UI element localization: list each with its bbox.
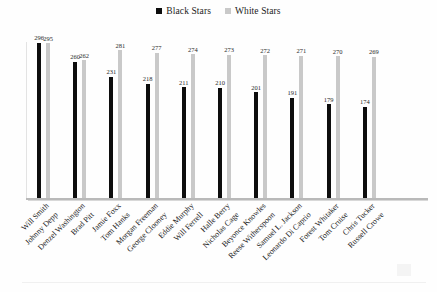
bar-value-label: 210	[215, 80, 225, 87]
x-axis-category-labels: Will SmithJohnny DeppDenzel WashingtonBr…	[26, 202, 428, 280]
bar-value-label: 281	[116, 43, 126, 50]
bar-black-stars[interactable]: 191	[290, 98, 294, 198]
bar-black-stars[interactable]: 174	[363, 107, 367, 198]
bar-black-stars[interactable]: 210	[218, 88, 222, 198]
legend-entry[interactable]: White Stars	[225, 6, 281, 16]
bar-black-stars[interactable]: 211	[182, 87, 186, 198]
bar-value-label: 179	[324, 97, 334, 104]
plot-area: 2962952602622312812182772112742102732012…	[26, 28, 428, 200]
bar-value-label: 277	[152, 45, 162, 52]
legend-swatch-black-stars	[156, 8, 162, 14]
bar-white-stars[interactable]: 277	[155, 53, 159, 198]
bar-value-label: 272	[260, 48, 270, 55]
bar-value-label: 231	[107, 69, 117, 76]
bar-value-label: 211	[179, 80, 189, 87]
bar-value-label: 269	[369, 49, 379, 56]
bar-white-stars[interactable]: 262	[82, 60, 86, 198]
baseline-strip	[22, 282, 426, 283]
bar-value-label: 295	[43, 36, 53, 43]
bar-black-stars[interactable]: 179	[327, 104, 331, 198]
bar-white-stars[interactable]: 281	[118, 50, 122, 198]
bar-chart: Black StarsWhite Stars 29629526026223128…	[0, 0, 437, 292]
bar-value-label: 262	[79, 53, 89, 60]
bar-white-stars[interactable]: 273	[227, 55, 231, 198]
bar-black-stars[interactable]: 231	[109, 77, 113, 198]
bar-value-label: 273	[224, 47, 234, 54]
legend-label: Black Stars	[166, 6, 211, 16]
bar-white-stars[interactable]: 272	[263, 55, 267, 198]
corner-artifact	[397, 264, 411, 276]
bar-black-stars[interactable]: 218	[146, 84, 150, 198]
bar-value-label: 271	[297, 48, 307, 55]
x-axis-shadow	[28, 200, 428, 201]
bar-black-stars[interactable]: 201	[254, 92, 258, 198]
y-axis-line	[26, 42, 27, 199]
bar-white-stars[interactable]: 269	[372, 57, 376, 198]
bar-value-label: 270	[333, 49, 343, 56]
bar-value-label: 218	[143, 76, 153, 83]
bar-white-stars[interactable]: 274	[191, 54, 195, 198]
bar-value-label: 201	[251, 85, 261, 92]
legend-label: White Stars	[235, 6, 281, 16]
bar-white-stars[interactable]: 295	[46, 43, 50, 198]
legend-swatch-white-stars	[225, 8, 231, 14]
legend-entry[interactable]: Black Stars	[156, 6, 211, 16]
bar-black-stars[interactable]: 296	[37, 43, 41, 198]
bar-white-stars[interactable]: 270	[336, 56, 340, 198]
bar-value-label: 191	[288, 90, 298, 97]
bar-white-stars[interactable]: 271	[299, 56, 303, 198]
bar-value-label: 174	[360, 99, 370, 106]
chart-legend: Black StarsWhite Stars	[0, 6, 437, 16]
bar-black-stars[interactable]: 260	[73, 62, 77, 199]
bar-value-label: 274	[188, 47, 198, 54]
